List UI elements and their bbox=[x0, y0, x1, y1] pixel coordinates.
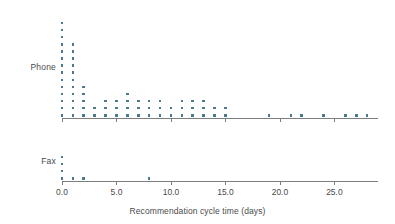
x-axis-tick-label: 15.0 bbox=[217, 187, 234, 197]
data-point bbox=[181, 107, 184, 110]
data-point bbox=[82, 107, 85, 110]
data-point bbox=[82, 93, 85, 96]
data-point bbox=[159, 107, 162, 110]
panel-label-fax: Fax bbox=[4, 156, 56, 166]
x-axis-tick bbox=[62, 118, 63, 122]
data-point bbox=[300, 114, 303, 117]
data-point bbox=[137, 114, 140, 117]
x-axis-title: Recommendation cycle time (days) bbox=[0, 206, 395, 216]
data-point bbox=[93, 107, 96, 110]
data-point bbox=[126, 114, 129, 117]
data-point bbox=[72, 107, 75, 110]
data-point bbox=[137, 100, 140, 103]
data-point bbox=[148, 177, 151, 180]
data-point bbox=[72, 114, 75, 117]
x-axis-line bbox=[62, 181, 378, 182]
data-point bbox=[61, 107, 64, 110]
data-point bbox=[72, 177, 75, 180]
data-point bbox=[72, 93, 75, 96]
x-axis-tick bbox=[334, 181, 335, 185]
data-point bbox=[61, 170, 64, 173]
data-point bbox=[104, 107, 107, 110]
data-point bbox=[191, 107, 194, 110]
x-axis-tick bbox=[334, 118, 335, 122]
data-point bbox=[61, 43, 64, 46]
data-point bbox=[72, 57, 75, 60]
data-point bbox=[181, 114, 184, 117]
data-point bbox=[72, 64, 75, 67]
data-point bbox=[148, 100, 151, 103]
data-point bbox=[82, 177, 85, 180]
x-axis-tick bbox=[280, 118, 281, 122]
data-point bbox=[202, 107, 205, 110]
x-axis-tick bbox=[225, 118, 226, 122]
data-point bbox=[268, 114, 271, 117]
data-point bbox=[170, 107, 173, 110]
x-axis-tick-label: 0.0 bbox=[56, 187, 68, 197]
data-point bbox=[72, 71, 75, 74]
data-point bbox=[61, 57, 64, 60]
data-point bbox=[61, 79, 64, 82]
x-axis-tick-label: 25.0 bbox=[326, 187, 343, 197]
x-axis-tick bbox=[62, 181, 63, 185]
x-axis-tick-label: 5.0 bbox=[111, 187, 123, 197]
data-point bbox=[126, 93, 129, 96]
data-point bbox=[366, 114, 369, 117]
data-point bbox=[72, 100, 75, 103]
data-point bbox=[93, 114, 96, 117]
data-point bbox=[344, 114, 347, 117]
panel-label-phone: Phone bbox=[4, 62, 56, 72]
data-point bbox=[61, 50, 64, 53]
data-point bbox=[202, 100, 205, 103]
x-axis-tick bbox=[116, 181, 117, 185]
data-point bbox=[213, 107, 216, 110]
data-point bbox=[224, 107, 227, 110]
data-point bbox=[61, 114, 64, 117]
data-point bbox=[159, 114, 162, 117]
data-point bbox=[213, 114, 216, 117]
data-point bbox=[115, 114, 118, 117]
data-point bbox=[72, 43, 75, 46]
data-point bbox=[126, 107, 129, 110]
data-point bbox=[61, 36, 64, 39]
x-axis-tick bbox=[280, 181, 281, 185]
data-point bbox=[290, 114, 293, 117]
data-point bbox=[104, 100, 107, 103]
data-point bbox=[82, 100, 85, 103]
data-point bbox=[61, 64, 64, 67]
data-point bbox=[115, 100, 118, 103]
data-point bbox=[224, 114, 227, 117]
data-point bbox=[181, 100, 184, 103]
data-point bbox=[61, 163, 64, 166]
x-axis-tick bbox=[171, 181, 172, 185]
data-point bbox=[61, 93, 64, 96]
data-point bbox=[72, 50, 75, 53]
dotplot-figure: Phone Fax 0.05.010.015.020.025.0 Recomme… bbox=[0, 0, 395, 224]
data-point bbox=[72, 79, 75, 82]
x-axis-tick bbox=[116, 118, 117, 122]
data-point bbox=[61, 177, 64, 180]
data-point bbox=[61, 29, 64, 32]
data-point bbox=[126, 100, 129, 103]
data-point bbox=[104, 114, 107, 117]
data-point bbox=[148, 114, 151, 117]
data-point bbox=[148, 107, 151, 110]
x-axis-tick-label: 10.0 bbox=[163, 187, 180, 197]
data-point bbox=[115, 107, 118, 110]
x-axis-tick bbox=[225, 181, 226, 185]
data-point bbox=[61, 86, 64, 89]
x-axis-tick-label: 20.0 bbox=[272, 187, 289, 197]
data-point bbox=[191, 100, 194, 103]
data-point bbox=[61, 156, 64, 159]
data-point bbox=[82, 114, 85, 117]
data-point bbox=[61, 71, 64, 74]
plot-area: 0.05.010.015.020.025.0 bbox=[0, 0, 395, 224]
data-point bbox=[159, 100, 162, 103]
x-axis-line bbox=[62, 118, 378, 119]
data-point bbox=[355, 114, 358, 117]
data-point bbox=[137, 107, 140, 110]
data-point bbox=[72, 86, 75, 89]
data-point bbox=[322, 114, 325, 117]
x-axis-tick bbox=[171, 118, 172, 122]
data-point bbox=[82, 86, 85, 89]
